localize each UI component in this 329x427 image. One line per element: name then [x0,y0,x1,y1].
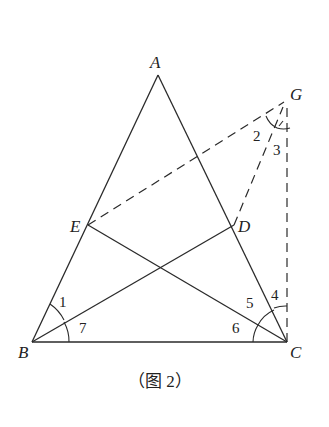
angle-6-arc [253,325,258,342]
point-A-label: A [149,53,161,72]
angle-5-label: 5 [246,295,254,311]
angle-tick [279,121,283,126]
angle-7-label: 7 [79,320,87,336]
point-G-label: G [290,85,302,104]
geometry-diagram: A B C D E G 1 7 2 3 4 5 6 （图 2） [0,0,329,427]
angle-1-label: 1 [59,294,67,310]
segment-CE [88,225,287,342]
angle-5-arc [258,310,274,325]
angle-6-label: 6 [232,320,240,336]
segment-DG [234,107,283,225]
segment-AC [158,75,287,342]
point-D-label: D [237,217,251,236]
angle-4-arc [274,306,287,308]
figure-caption: （图 2） [128,372,192,391]
segment-EG [88,102,284,225]
angle-2-label: 2 [253,128,261,144]
point-B-label: B [18,343,29,362]
angle-3-arc [277,128,290,129]
segment-BD [32,225,234,342]
angle-7-arc [64,322,69,342]
point-C-label: C [290,343,302,362]
segment-AB [32,75,158,342]
angle-4-label: 4 [271,287,279,303]
angle-3-label: 3 [273,142,281,158]
point-E-label: E [69,217,81,236]
